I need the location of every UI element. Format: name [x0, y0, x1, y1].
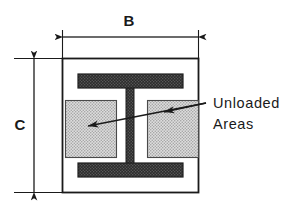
- cross-section-diagram: B C Unloaded Areas: [0, 0, 302, 213]
- i-beam-web: [126, 86, 134, 165]
- callout-label-line1: Unloaded: [213, 95, 280, 111]
- dimension-label-b: B: [124, 12, 135, 29]
- unloaded-area-left: [66, 101, 117, 158]
- callout-label-line2: Areas: [213, 116, 254, 132]
- b-extension-lines: [63, 30, 199, 62]
- dimension-label-c: C: [15, 116, 26, 133]
- i-beam-top-flange: [78, 74, 183, 88]
- i-beam-bottom-flange: [78, 163, 183, 177]
- figure-container: B C Unloaded Areas: [0, 0, 302, 213]
